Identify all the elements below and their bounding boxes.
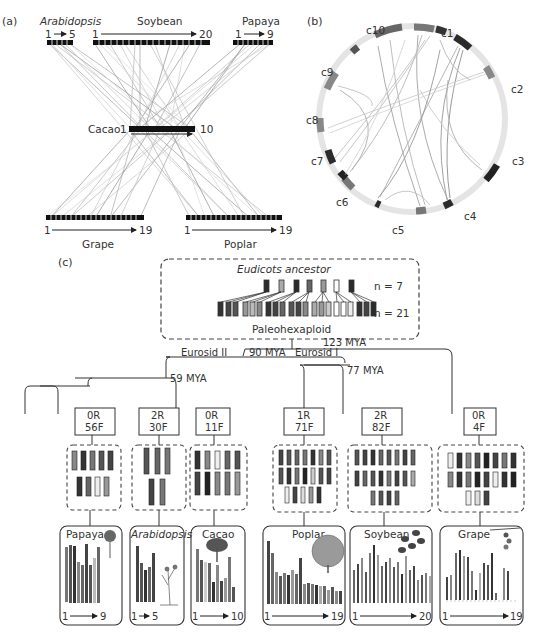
- papaya-label: Papaya: [242, 15, 280, 27]
- panel-b: (b): [306, 15, 524, 236]
- rearrangement-count: 2R: [151, 410, 164, 421]
- fusion-count: 56F: [85, 422, 104, 433]
- chrom-label-c5: c5: [392, 224, 404, 236]
- fusion-count: 71F: [295, 422, 314, 433]
- chrom-label-c8: c8: [306, 114, 318, 126]
- lineage-poplar: 1R 71F: [284, 408, 324, 435]
- soybean-genome-bars: [353, 545, 431, 603]
- n-ancestral: n = 7: [374, 280, 403, 292]
- lineage-soybean: 2R 82F: [362, 408, 402, 435]
- chrom-label-c3: c3: [512, 155, 524, 167]
- poplar-axis-end: 19: [331, 611, 344, 622]
- chrom-label-c6: c6: [336, 196, 349, 208]
- figure-canvas: (a) Arabidopsis Soybean Papaya 1 5 1 20 …: [0, 0, 542, 639]
- lineage-arabidopsis: 2R 30F: [139, 408, 179, 435]
- grape-vine-icon: [490, 528, 520, 550]
- poplar-track: [186, 215, 282, 220]
- papaya-tree-icon: [104, 530, 116, 558]
- poplar-start: 1: [184, 224, 191, 236]
- soybean-axis-end: 20: [419, 611, 432, 622]
- cacao-genome-bars: [196, 549, 235, 602]
- rearrangement-count: 1R: [297, 410, 310, 421]
- eurosid-ii-label: Eurosid II: [181, 347, 227, 358]
- arabidopsis-end: 5: [69, 28, 76, 40]
- eurosid-split-divergence: 90 MYA: [249, 347, 286, 358]
- papaya-axis-start: 1: [62, 611, 68, 622]
- cacao-start: 1: [120, 123, 127, 135]
- panel-c-label: (c): [58, 256, 73, 269]
- grape-end: 19: [139, 224, 152, 236]
- fusion-count: 4F: [473, 422, 485, 433]
- poplar-axis-start: 1: [264, 611, 270, 622]
- cacao-tree-icon: [206, 538, 228, 562]
- rearrangement-count: 0R: [205, 410, 218, 421]
- poplar-label: Poplar: [224, 238, 257, 250]
- cacao-label: Cacao: [88, 123, 120, 135]
- species-papaya: Papaya: [66, 528, 104, 540]
- poplar-end: 19: [279, 224, 292, 236]
- ancestor-title: Eudicots ancestor: [237, 263, 331, 275]
- ancestral-chromosomes: [264, 280, 354, 292]
- cacao-end: 10: [200, 123, 213, 135]
- soybean-axis-start: 1: [352, 611, 358, 622]
- arabidopsis-genome-bars: [136, 546, 155, 602]
- soybean-start: 1: [92, 28, 99, 40]
- fusion-count: 11F: [205, 422, 224, 433]
- arabidopsis-plant-icon: [160, 565, 178, 605]
- rearrangement-count: 0R: [472, 410, 485, 421]
- n-paleohexaploid: n = 21: [374, 307, 410, 319]
- eurosid-i-divergence: 77 MYA: [347, 365, 384, 376]
- lineage-cacao: 0R 11F: [196, 408, 230, 435]
- grape-genome-bars: [446, 550, 518, 601]
- paleohexaploid-chromosomes: [218, 302, 376, 316]
- soybean-end: 20: [199, 28, 212, 40]
- arabidopsis-track: [47, 40, 73, 45]
- synteny-links: [328, 35, 486, 206]
- chrom-label-c4: c4: [464, 210, 477, 222]
- fusion-count: 82F: [372, 422, 391, 433]
- species-axes: 1 9 1 5 1 10 1 19 1 20 1 19: [62, 611, 523, 622]
- chrom-label-c10: c10: [366, 24, 385, 36]
- chrom-label-c2: c2: [511, 83, 523, 95]
- panel-a: (a) Arabidopsis Soybean Papaya 1 5 1 20 …: [2, 15, 292, 250]
- rearrangement-count: 0R: [87, 410, 100, 421]
- eurosid-i-label: Eurosid I: [295, 347, 338, 358]
- cacao-track: [129, 126, 195, 132]
- cacao-axis-end: 10: [231, 611, 244, 622]
- species-arabidopsis: Arabidopsis: [130, 528, 193, 540]
- karyotype-chromosomes: [72, 448, 516, 505]
- lineage-grape: 0R 4F: [464, 408, 496, 435]
- poplar-tree-icon: [312, 535, 344, 573]
- fusion-count: 30F: [149, 422, 168, 433]
- ancestor-subtitle: Paleohexaploid: [252, 323, 331, 335]
- soybean-label: Soybean: [137, 15, 183, 27]
- lineage-papaya: 0R 56F: [75, 408, 115, 435]
- arabidopsis-axis-start: 1: [131, 611, 137, 622]
- eurosid-ii-divergence: 59 MYA: [170, 373, 207, 384]
- panel-a-label: (a): [2, 15, 17, 28]
- arabidopsis-axis-end: 5: [152, 611, 158, 622]
- species-grape: Grape: [458, 528, 490, 540]
- chrom-label-c1: c1: [441, 27, 453, 39]
- chrom-label-c7: c7: [311, 155, 323, 167]
- rearrangement-count: 2R: [374, 410, 387, 421]
- arabidopsis-label: Arabidopsis: [39, 15, 102, 27]
- papaya-start: 1: [235, 28, 242, 40]
- panel-b-label: (b): [307, 15, 323, 28]
- arabidopsis-start: 1: [45, 28, 52, 40]
- soybean-track: [93, 40, 210, 45]
- grape-axis-end: 19: [510, 611, 523, 622]
- grape-axis-start: 1: [442, 611, 448, 622]
- papaya-genome-bars: [65, 544, 100, 603]
- cacao-axis-start: 1: [192, 611, 198, 622]
- papaya-axis-end: 9: [100, 611, 106, 622]
- grape-label: Grape: [82, 238, 114, 250]
- papaya-end: 9: [267, 28, 274, 40]
- chrom-label-c9: c9: [321, 66, 333, 78]
- grape-start: 1: [44, 224, 51, 236]
- panel-c: (c) Eudicots ancestor n = 7 n = 21 Paleo…: [25, 256, 524, 625]
- phylogeny-tree: [25, 339, 452, 414]
